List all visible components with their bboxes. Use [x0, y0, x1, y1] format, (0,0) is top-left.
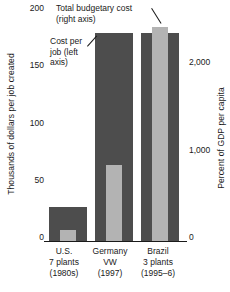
y-axis-left-title: Thousands of dollars per job created — [6, 44, 16, 204]
y-tick-left-50: 50 — [35, 176, 44, 185]
annotation-cost-line1: Cost per — [50, 36, 82, 46]
x-label-germany: Germany VW (1997) — [86, 246, 134, 279]
y-tick-right-0: 0 — [189, 233, 194, 242]
y-tick-right-2000: 2,000 — [189, 58, 210, 67]
annotation-total-line2: (right axis) — [56, 14, 96, 24]
chart-container: Thousands of dollars per job created Per… — [0, 0, 230, 292]
x-label-us: U.S. 7 plants (1980s) — [40, 246, 88, 279]
y-tick-right-1000: 1,000 — [189, 146, 210, 155]
bar-light-brazil — [152, 27, 168, 241]
x-label-us-line3: (1980s) — [40, 268, 88, 279]
x-label-us-line2: 7 plants — [40, 257, 88, 268]
x-label-brazil: Brazil 3 plants (1995–6) — [132, 246, 184, 279]
bar-light-us — [60, 230, 76, 241]
y-tick-left-100: 100 — [30, 119, 44, 128]
x-axis-line — [44, 241, 187, 242]
x-label-brazil-line3: (1995–6) — [132, 268, 184, 279]
annotation-total-budgetary-cost: Total budgetary cost (right axis) — [56, 3, 166, 24]
annotation-cost-line3: axis) — [50, 57, 68, 67]
annotation-cost-line2: job (left — [50, 47, 78, 57]
bar-light-germany — [106, 165, 122, 241]
annotation-total-line1: Total budgetary cost — [56, 3, 132, 13]
x-label-brazil-line1: Brazil — [132, 246, 184, 257]
x-label-germany-line1: Germany — [86, 246, 134, 257]
y-tick-left-200: 200 — [30, 4, 44, 13]
x-label-germany-line2: VW — [86, 257, 134, 268]
x-label-brazil-line2: 3 plants — [132, 257, 184, 268]
x-label-germany-line3: (1997) — [86, 268, 134, 279]
y-axis-right-title: Percent of GDP per capita — [216, 58, 226, 218]
y-tick-left-150: 150 — [30, 61, 44, 70]
annotation-cost-per-job: Cost per job (left axis) — [50, 36, 94, 68]
x-label-us-line1: U.S. — [40, 246, 88, 257]
